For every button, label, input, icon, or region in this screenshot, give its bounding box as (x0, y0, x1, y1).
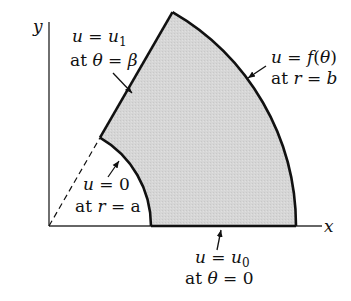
diagram-canvas: y x u = u1 at θ = β u = f(θ) at r = b u … (0, 0, 351, 301)
svg-text:at θ = β: at θ = β (70, 50, 138, 70)
arrow-top-edge (113, 73, 132, 93)
svg-text:at r = b: at r = b (271, 68, 337, 88)
svg-text:u = u1: u = u1 (72, 26, 127, 49)
label-bottom-edge: u = u0 at θ = 0 (185, 230, 254, 288)
x-axis-label: x (324, 216, 334, 236)
svg-text:u = u0: u = u0 (195, 247, 250, 270)
label-inner-arc: u = 0 at r = a (75, 161, 141, 216)
diagram-svg: y x u = u1 at θ = β u = f(θ) at r = b u … (0, 0, 351, 301)
arrow-outer-arc (248, 66, 266, 78)
svg-text:at r = a: at r = a (75, 196, 141, 216)
y-axis-label: y (32, 16, 43, 36)
svg-text:u = 0: u = 0 (83, 174, 130, 194)
label-top-edge: u = u1 at θ = β (70, 26, 138, 93)
svg-text:at θ = 0: at θ = 0 (185, 268, 254, 288)
svg-text:u = f(θ): u = f(θ) (271, 47, 337, 67)
label-outer-arc: u = f(θ) at r = b (248, 47, 337, 88)
